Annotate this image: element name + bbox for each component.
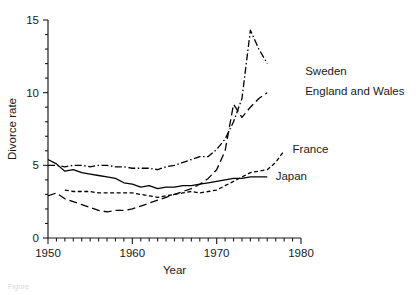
- y-tick-label: 15: [26, 14, 39, 26]
- series-label-japan: Japan: [276, 170, 307, 182]
- figure-caption: Figure: [8, 283, 29, 290]
- chart-figure: SwedenEngland and WalesFranceJapan 05101…: [0, 0, 419, 295]
- y-tick-label: 5: [33, 159, 39, 171]
- series-label-france: France: [293, 143, 329, 155]
- x-tick-label: 1950: [35, 247, 61, 259]
- y-tick-label: 10: [26, 87, 39, 99]
- series-label-sweden: Sweden: [305, 65, 347, 77]
- y-tick-label: 0: [33, 232, 39, 244]
- divorce-rate-line-chart: SwedenEngland and WalesFranceJapan 05101…: [0, 0, 419, 295]
- series-labels-layer: SwedenEngland and WalesFranceJapan: [276, 65, 405, 182]
- series-layer: [48, 30, 284, 212]
- series-line-japan: [48, 160, 267, 189]
- axes-layer: [43, 20, 301, 244]
- x-tick-label: 1970: [204, 247, 230, 259]
- series-line-france: [65, 151, 284, 198]
- axis-text-layer: 0510151950196019701980YearDivorce rate: [6, 14, 314, 276]
- y-axis-title: Divorce rate: [6, 98, 18, 160]
- x-tick-label: 1980: [288, 247, 314, 259]
- x-tick-label: 1960: [120, 247, 146, 259]
- x-axis-title: Year: [163, 264, 186, 276]
- series-line-england-and-wales: [48, 93, 267, 212]
- series-line-sweden: [48, 30, 267, 170]
- series-label-england-and-wales: England and Wales: [305, 85, 405, 97]
